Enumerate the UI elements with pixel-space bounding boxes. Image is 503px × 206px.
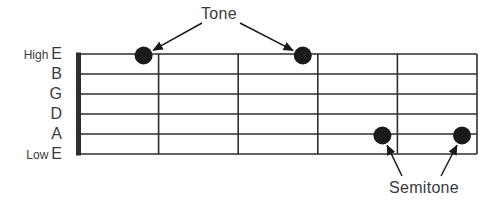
note-dot bbox=[135, 47, 153, 65]
string-prefix: Low bbox=[26, 146, 48, 162]
note-dot bbox=[453, 127, 471, 145]
annotation-arrow bbox=[153, 23, 202, 50]
string-note: A bbox=[51, 125, 62, 143]
string-note: E bbox=[51, 45, 62, 63]
fretboard-grid bbox=[0, 0, 503, 206]
string-label-b: B bbox=[0, 64, 62, 84]
annotation-arrow bbox=[441, 145, 457, 176]
string-note: E bbox=[51, 145, 62, 163]
string-label-g: G bbox=[0, 84, 62, 104]
nut bbox=[76, 53, 81, 156]
annotation-arrow bbox=[240, 23, 293, 50]
string-prefix: High bbox=[24, 46, 49, 62]
semitone-annotation-label: Semitone bbox=[389, 179, 459, 197]
string-labels: High E B G D A Low E bbox=[0, 44, 62, 164]
note-dot bbox=[373, 127, 391, 145]
string-note: G bbox=[50, 85, 62, 103]
note-dot bbox=[294, 47, 312, 65]
fretboard-figure: High E B G D A Low E Tone Semitone bbox=[0, 0, 503, 206]
string-label-d: D bbox=[0, 104, 62, 124]
string-label-low-e: Low E bbox=[0, 144, 62, 164]
string-note: D bbox=[50, 105, 62, 123]
tone-annotation-label: Tone bbox=[201, 5, 237, 23]
string-label-high-e: High E bbox=[0, 44, 62, 64]
annotation-arrow bbox=[387, 145, 402, 176]
string-note: B bbox=[51, 65, 62, 83]
string-label-a: A bbox=[0, 124, 62, 144]
